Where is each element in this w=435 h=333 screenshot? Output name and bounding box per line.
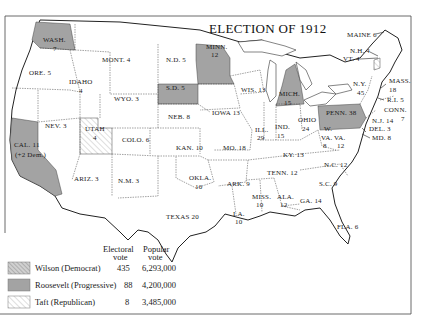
label-ariz: ARIZ. 3 [74,175,99,183]
legend: Electoral vote Popular vote Wilson (Demo… [8,244,176,308]
label-wva-va: VA. [321,134,333,142]
label-iowa: IOWA 13 [212,109,240,117]
label-idaho: IDAHO [69,78,93,86]
label-minn-votes: 12 [211,51,219,59]
label-va-votes: 12 [337,142,345,150]
label-ri: R.I. 5 [387,96,404,104]
label-mass-votes: 18 [389,86,397,94]
map-title: ELECTION OF 1912 [209,21,326,36]
wilson-swatch [8,262,30,274]
label-mo: MO. 18 [223,144,246,152]
label-conn-votes: 7 [401,115,405,123]
label-idaho-votes: 4 [79,87,83,95]
label-cal-sub: (+2 Dem.) [15,151,46,159]
label-wash-votes: 7 [53,45,57,53]
label-ala: ALA. [277,193,294,201]
label-conn: CONN. [384,106,407,114]
label-ark: ARK. 9 [227,180,250,188]
label-utah-votes: 4 [93,134,97,142]
label-okla-votes: 10 [195,183,203,191]
label-nm: N.M. 3 [118,177,140,185]
label-wva-w: W. [324,125,332,133]
roosevelt-states [10,22,366,196]
label-mich: MICH. [279,90,300,98]
legend-roosevelt-electoral: 88 [124,280,133,290]
label-vt: VT. 4 [343,55,360,63]
label-la-votes: 10 [235,218,243,226]
label-del: DEL. 3 [369,125,391,133]
label-md: MD. 8 [372,134,392,142]
state-vt[interactable] [374,58,380,70]
label-penn: PENN. 38 [326,109,357,117]
label-miss: MISS. [252,193,271,201]
label-ny-votes: 45 [357,89,365,97]
label-nc: N.C. 12 [324,161,348,169]
label-wva-votes: 8 [323,142,327,150]
label-tenn: TENN. 12 [267,169,298,177]
label-ala-votes: 12 [280,201,288,209]
label-okla: OKLA. [189,174,211,182]
label-ohio-votes: 24 [302,125,310,133]
label-wyo: WYO. 3 [114,95,139,103]
label-sc: S.C. 9 [319,180,338,188]
label-sd: S.D. 5 [166,84,185,92]
label-fla: FLA. 6 [337,223,359,231]
label-cal: CAL. 11 [14,141,40,149]
label-nh: N.H. 4 [350,47,370,55]
taft-swatch [8,296,30,308]
label-colo: COLO. 6 [122,136,150,144]
legend-row-taft: Taft (Republican) 8 3,485,000 [8,296,176,308]
legend-row-wilson: Wilson (Democrat) 435 6,293,000 [8,262,176,274]
legend-taft-electoral: 8 [125,297,129,307]
label-utah: UTAH [85,125,105,133]
legend-taft-popular: 3,485,000 [142,297,176,307]
legend-roosevelt-name: Roosevelt (Progressive) [35,280,117,290]
label-wis: WIS. 13 [241,86,266,94]
legend-row-roosevelt: Roosevelt (Progressive) 88 4,200,000 [8,279,176,291]
label-ohio: OHIO [298,116,316,124]
legend-taft-name: Taft (Republican) [35,297,95,307]
label-ny: N.Y. [353,80,367,88]
label-ind: IND. [275,123,290,131]
label-ill: ILL. [255,126,268,134]
label-ga: GA. 14 [300,197,322,205]
label-ore: ORE. 5 [29,69,51,77]
label-la: LA. [233,210,245,218]
label-kan: KAN. 10 [176,144,203,152]
label-nev: NEV. 3 [45,122,67,130]
label-ill-votes: 29 [257,134,265,142]
legend-wilson-popular: 6,293,000 [142,263,176,273]
label-ind-votes: 15 [277,132,285,140]
legend-roosevelt-popular: 4,200,000 [142,280,176,290]
label-neb: NEB. 8 [168,113,190,121]
label-mass: MASS. [389,77,411,85]
label-nd: N.D. 5 [166,56,186,64]
roosevelt-swatch [8,279,30,291]
label-va: VA. [334,134,346,142]
election-map: ELECTION OF 1912 WASH. 7 ORE. 5 CAL. 11 … [0,0,435,333]
label-ky: KY. 13 [283,151,304,159]
label-miss-votes: 10 [256,201,264,209]
legend-electoral-header-2: vote [113,252,128,262]
legend-wilson-electoral: 435 [117,263,130,273]
label-wash: WASH. [43,36,66,44]
label-nj: N.J. 14 [372,117,394,125]
legend-popular-header-2: vote [148,252,163,262]
legend-wilson-name: Wilson (Democrat) [35,263,101,273]
label-minn: MINN. [206,43,227,51]
label-mich-votes: 15 [284,99,292,107]
label-maine: MAINE 6 [347,31,377,39]
label-mont: MONT. 4 [102,56,131,64]
label-texas: TEXAS 20 [166,213,199,221]
